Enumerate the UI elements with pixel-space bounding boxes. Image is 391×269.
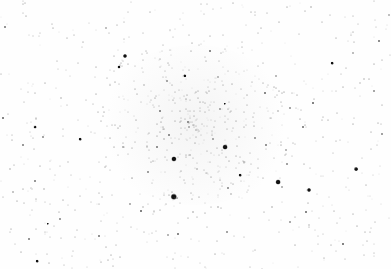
faint-star [106,125,107,126]
faint-star [265,144,267,146]
faint-star [286,163,288,165]
faint-star [252,50,253,51]
faint-star [346,231,347,232]
faint-star [255,250,256,251]
faint-star [323,258,324,259]
faint-star [94,133,95,134]
faint-star [271,135,272,136]
faint-star [171,50,172,51]
faint-star [186,108,187,109]
faint-star [349,189,350,190]
faint-star [163,77,164,78]
faint-star [174,28,175,29]
faint-star [273,89,274,90]
faint-star [151,90,152,91]
faint-star [113,258,114,259]
faint-star [72,267,73,268]
faint-star [156,159,157,160]
faint-star [317,193,318,194]
faint-star [342,243,344,245]
faint-star [277,110,279,112]
faint-star [152,104,153,105]
faint-star [376,145,377,146]
faint-star [221,208,222,209]
faint-star [250,266,251,267]
faint-star [248,190,249,191]
faint-star [322,137,323,138]
faint-star [313,99,314,100]
faint-star [207,119,208,120]
faint-star [227,70,228,71]
faint-star [323,234,324,235]
faint-star [114,81,115,82]
faint-star [226,231,228,233]
faint-star [200,107,201,108]
faint-star [59,32,60,33]
faint-star [254,113,255,114]
faint-star [207,133,208,134]
faint-star [205,57,206,58]
faint-star [294,63,295,64]
faint-star [347,177,348,178]
faint-star [93,103,94,104]
faint-star [28,34,29,35]
faint-star [249,171,250,172]
faint-star [305,126,306,127]
faint-star [137,229,138,230]
faint-star [155,57,156,58]
faint-star [196,126,197,127]
faint-star [226,156,227,157]
faint-star [305,84,306,85]
faint-star [257,66,258,67]
faint-star [179,18,180,19]
faint-star [270,142,271,143]
faint-star [17,201,18,202]
faint-star [267,87,268,88]
faint-star [167,257,168,258]
faint-star [220,52,221,53]
faint-star [55,88,56,89]
faint-star [217,165,218,166]
faint-star [190,51,191,52]
faint-star [192,158,193,159]
faint-star [345,16,346,17]
faint-star [177,223,178,224]
faint-star [189,123,190,124]
faint-star [374,252,375,253]
faint-star [111,195,112,196]
faint-star [271,206,273,208]
faint-star [156,124,157,125]
faint-star [254,12,255,13]
faint-star [1,16,2,17]
faint-star [297,109,298,110]
faint-star [220,166,221,167]
faint-star [210,161,211,162]
faint-star [160,127,161,128]
faint-star [72,29,73,30]
faint-star [272,262,273,263]
faint-star [281,93,282,94]
faint-star [171,143,172,144]
faint-star [186,101,187,102]
faint-star [347,40,348,41]
faint-star [120,257,121,258]
faint-star [60,97,62,99]
faint-star [118,128,119,129]
faint-star [152,213,153,214]
faint-star [168,62,169,63]
faint-star [154,9,155,10]
faint-star [166,80,168,82]
faint-star [112,125,113,126]
faint-star [294,216,295,217]
faint-star [24,102,25,103]
faint-star [209,50,211,52]
faint-star [180,82,181,83]
faint-star [277,95,278,96]
faint-star [133,115,134,116]
faint-star [67,205,68,206]
star [331,62,334,65]
faint-star [105,156,106,157]
faint-star [310,168,311,169]
faint-star [372,198,373,199]
faint-star [201,124,202,125]
